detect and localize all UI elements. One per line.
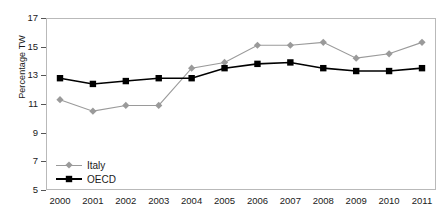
data-point-oecd-2002 (123, 78, 129, 84)
y-axis-tick-mark (41, 47, 46, 48)
data-point-italy-2008 (320, 39, 327, 46)
x-axis-tick-2011: 2011 (412, 196, 432, 206)
data-point-italy-2009 (353, 55, 360, 62)
x-axis-tick-labels: 2000200120022003200420052006200720082009… (46, 196, 436, 216)
data-point-oecd-2003 (156, 75, 162, 81)
data-point-oecd-2006 (254, 61, 260, 67)
y-axis-tick-mark (41, 161, 46, 162)
legend-item-oecd: OECD (56, 172, 116, 186)
x-axis-tick-2007: 2007 (280, 196, 301, 206)
chart-legend: Italy OECD (56, 158, 116, 186)
data-point-italy-2006 (254, 42, 261, 49)
legend-item-italy: Italy (56, 158, 116, 172)
x-axis-tick-2009: 2009 (346, 196, 367, 206)
data-point-oecd-2005 (221, 65, 227, 71)
y-axis-tick-mark (41, 190, 46, 191)
y-axis-tick-mark (41, 133, 46, 134)
x-axis-tick-2010: 2010 (379, 196, 400, 206)
y-axis-tick-mark (41, 104, 46, 105)
y-axis-tick-5: 5 (0, 185, 38, 195)
x-axis-tick-2004: 2004 (181, 196, 202, 206)
y-axis-tick-7: 7 (0, 156, 38, 166)
data-point-oecd-2010 (386, 68, 392, 74)
data-point-oecd-2011 (419, 65, 425, 71)
y-axis-tick-11: 11 (0, 99, 38, 109)
data-point-oecd-2001 (90, 81, 96, 87)
y-axis-tick-13: 13 (0, 70, 38, 80)
y-axis-tick-mark (41, 18, 46, 19)
data-point-oecd-2007 (287, 59, 293, 65)
series-line-italy (60, 42, 422, 111)
data-point-oecd-2009 (353, 68, 359, 74)
series-line-oecd (60, 62, 422, 84)
data-point-italy-2005 (221, 59, 228, 66)
legend-label-oecd: OECD (87, 174, 116, 185)
data-point-italy-2007 (287, 42, 294, 49)
y-axis-tick-labels: 57911131517 (0, 0, 38, 222)
data-point-italy-2011 (418, 39, 425, 46)
data-point-italy-2001 (89, 108, 96, 115)
y-axis-tick-17: 17 (0, 13, 38, 23)
x-axis-tick-2005: 2005 (214, 196, 235, 206)
legend-marker-square-icon (56, 173, 82, 185)
data-point-oecd-2000 (57, 75, 63, 81)
line-chart: Percentage TW 57911131517 20002001200220… (0, 0, 442, 222)
x-axis-tick-2001: 2001 (82, 196, 103, 206)
x-axis-tick-2006: 2006 (247, 196, 268, 206)
y-axis-tick-9: 9 (0, 128, 38, 138)
legend-marker-diamond-icon (56, 159, 82, 171)
x-axis-tick-2003: 2003 (148, 196, 169, 206)
data-point-oecd-2004 (188, 75, 194, 81)
data-point-italy-2002 (122, 102, 129, 109)
legend-label-italy: Italy (87, 160, 105, 171)
data-point-italy-2000 (56, 96, 63, 103)
y-axis-tick-15: 15 (0, 42, 38, 52)
x-axis-tick-2002: 2002 (115, 196, 136, 206)
y-axis-tick-mark (41, 75, 46, 76)
x-axis-tick-2008: 2008 (313, 196, 334, 206)
data-point-oecd-2008 (320, 65, 326, 71)
data-point-italy-2010 (385, 50, 392, 57)
x-axis-tick-2000: 2000 (49, 196, 70, 206)
